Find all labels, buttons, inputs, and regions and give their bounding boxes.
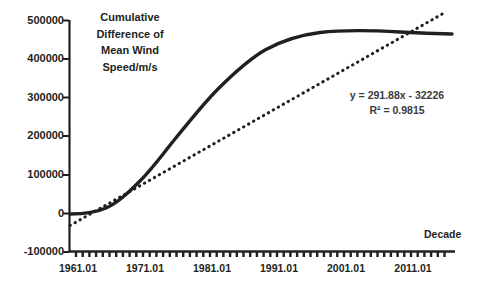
x-axis-tick-label-2001: 2001.01 (311, 262, 381, 274)
x-axis-tick-label-1961: 1961.01 (43, 262, 113, 274)
x-axis-tick-label-1971: 1971.01 (110, 262, 180, 274)
x-axis-title: Decade (424, 228, 461, 240)
y-axis-tick-label: 100000 (2, 168, 64, 180)
y-axis-tick-label: -100000 (2, 245, 64, 257)
y-axis-tick-label: 0 (2, 207, 64, 219)
y-axis-tick-label: 300000 (2, 91, 64, 103)
y-axis-tick-label: 400000 (2, 52, 64, 64)
chart-title: Cumulative Difference of Mean Wind Speed… (76, 9, 184, 75)
y-axis-tick-label: 200000 (2, 129, 64, 141)
chart-title-line-2: Difference of (76, 26, 184, 43)
regression-annotation: y = 291.88x - 32226 R² = 0.9815 (334, 88, 460, 118)
plot-area (0, 0, 484, 284)
r-squared-value: R² = 0.9815 (334, 103, 460, 118)
wind-speed-cumulative-difference-chart: Cumulative Difference of Mean Wind Speed… (0, 0, 484, 284)
x-axis-tick-label-1991: 1991.01 (244, 262, 314, 274)
x-axis-tick-label-2011: 2011.01 (378, 262, 448, 274)
y-axis-tick-label: 500000 (2, 14, 64, 26)
chart-title-line-4: Speed/m/s (76, 59, 184, 76)
regression-equation: y = 291.88x - 32226 (334, 88, 460, 103)
chart-title-line-3: Mean Wind (76, 42, 184, 59)
chart-title-line-1: Cumulative (76, 9, 184, 26)
x-axis-tick-label-1981: 1981.01 (177, 262, 247, 274)
